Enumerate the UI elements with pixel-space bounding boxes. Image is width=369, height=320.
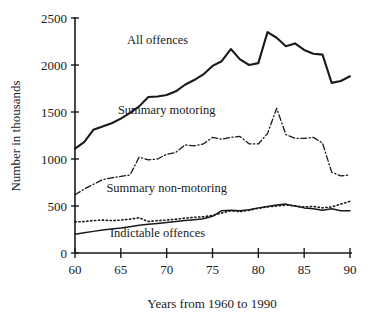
series-annotation-group: All offencesSummary motoringSummary non-…	[106, 33, 227, 240]
y-tick-label: 500	[48, 199, 68, 214]
y-tick-label-group: 05001000150020002500	[41, 11, 67, 261]
y-tick-label: 2000	[41, 58, 67, 73]
y-tick-label: 1000	[41, 152, 67, 167]
series-line-2	[75, 201, 350, 222]
x-tick-label: 85	[298, 262, 311, 277]
x-axis-title: Years from 1960 to 1990	[147, 296, 276, 311]
y-tick-label: 2500	[41, 11, 67, 26]
series-label-0: All offences	[127, 33, 188, 47]
line-chart-plot: 05001000150020002500 60657075808590 All …	[0, 0, 369, 320]
x-tick-label: 90	[344, 262, 357, 277]
y-axis-title: Number in thousands	[8, 80, 23, 191]
data-series-group	[75, 32, 350, 234]
series-label-2: Summary non-motoring	[106, 181, 227, 195]
chart-container: 05001000150020002500 60657075808590 All …	[0, 0, 369, 320]
series-label-1: Summary motoring	[118, 103, 216, 117]
x-tick-label-group: 60657075808590	[69, 262, 357, 277]
y-tick-label: 1500	[41, 105, 67, 120]
x-tick-label: 80	[252, 262, 265, 277]
x-tick-label: 65	[114, 262, 127, 277]
series-line-0	[75, 32, 350, 149]
x-tick-label: 70	[160, 262, 173, 277]
y-tick-label: 0	[61, 246, 68, 261]
x-tick-label: 60	[69, 262, 82, 277]
x-tick-label: 75	[206, 262, 219, 277]
series-label-3: Indictable offences	[110, 226, 205, 240]
